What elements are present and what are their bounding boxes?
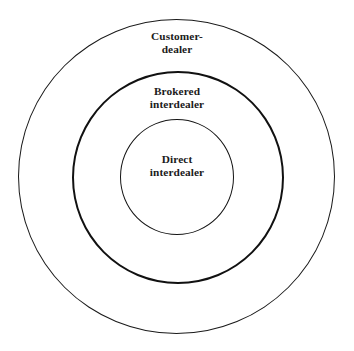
ring-label-customer-dealer-line2: dealer [0, 43, 354, 56]
ring-label-brokered-interdealer-line1: Brokered [0, 85, 354, 98]
concentric-ring-diagram: Customer- dealer Brokered interdealer Di… [0, 0, 354, 351]
ring-label-brokered-interdealer-line2: interdealer [0, 98, 354, 111]
ring-label-brokered-interdealer: Brokered interdealer [0, 85, 354, 111]
ring-label-customer-dealer: Customer- dealer [0, 30, 354, 56]
ring-label-direct-interdealer: Direct interdealer [0, 153, 354, 179]
ring-label-direct-interdealer-line1: Direct [0, 153, 354, 166]
ring-label-direct-interdealer-line2: interdealer [0, 166, 354, 179]
ring-label-customer-dealer-line1: Customer- [0, 30, 354, 43]
